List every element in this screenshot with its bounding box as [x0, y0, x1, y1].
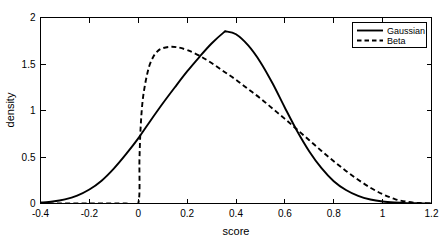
y-axis-title: density [4, 92, 16, 127]
y-tick-label: 2 [30, 12, 36, 23]
x-tick-label: 0.2 [180, 208, 194, 219]
x-axis-tick-labels: -0.4-0.200.20.40.60.811.2 [32, 208, 439, 219]
x-axis-title: score [223, 225, 250, 237]
x-tick-label: -0.4 [32, 208, 50, 219]
x-tick-label: 1.2 [425, 208, 439, 219]
chart-figure: -0.4-0.200.20.40.60.811.2 00.511.52 scor… [0, 0, 444, 245]
x-tick-label: 0.8 [327, 208, 341, 219]
legend-label-gaussian: Gaussian [387, 26, 425, 36]
legend-label-beta: Beta [387, 36, 406, 46]
x-tick-label: 0 [135, 208, 141, 219]
y-tick-label: 0.5 [22, 152, 36, 163]
legend: Gaussian Beta [353, 23, 427, 48]
y-axis-tick-labels: 00.511.52 [22, 12, 36, 209]
density-plot: -0.4-0.200.20.40.60.811.2 00.511.52 scor… [0, 0, 444, 245]
x-tick-label: 1 [380, 208, 386, 219]
x-tick-label: 0.6 [278, 208, 292, 219]
x-tick-label: 0.4 [229, 208, 243, 219]
y-tick-label: 0 [30, 198, 36, 209]
y-tick-label: 1.5 [22, 59, 36, 70]
y-tick-label: 1 [30, 105, 36, 116]
x-tick-label: -0.2 [81, 208, 99, 219]
